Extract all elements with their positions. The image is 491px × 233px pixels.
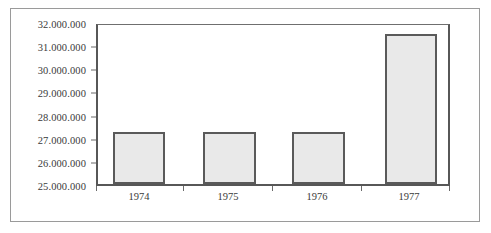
bar-1977	[385, 34, 437, 184]
y-tick-label: 32.000.000	[38, 19, 86, 30]
x-label-1975: 1975	[218, 191, 239, 202]
x-label-1976: 1976	[307, 191, 328, 202]
y-tick-label: 31.000.000	[38, 42, 86, 53]
y-tick-label: 29.000.000	[38, 88, 86, 99]
x-tick-mark	[449, 186, 450, 191]
x-label-1974: 1974	[129, 191, 150, 202]
y-tick-label: 25.000.000	[38, 181, 86, 192]
y-tick-label: 28.000.000	[38, 112, 86, 123]
x-tick-mark	[272, 186, 273, 191]
y-axis: 32.000.000 31.000.000 30.000.000 29.000.…	[0, 0, 96, 233]
x-tick-mark	[183, 186, 184, 191]
y-tick-label: 27.000.000	[38, 135, 86, 146]
bar-1976	[292, 132, 345, 184]
y-tick-label: 30.000.000	[38, 65, 86, 76]
bar-1974	[113, 132, 165, 184]
x-label-1977: 1977	[399, 191, 420, 202]
y-tick-label: 26.000.000	[38, 158, 86, 169]
x-tick-mark	[361, 186, 362, 191]
bar-1975	[203, 132, 256, 184]
plot-area	[96, 24, 450, 186]
chart-figure: 32.000.000 31.000.000 30.000.000 29.000.…	[0, 0, 491, 233]
x-tick-mark	[96, 186, 97, 191]
